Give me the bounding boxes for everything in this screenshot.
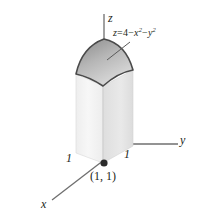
- point-marker-dot: [100, 159, 107, 166]
- column-left-face: [76, 74, 103, 163]
- y-axis-tick-label-1: 1: [124, 148, 130, 160]
- y-axis-label: y: [180, 134, 185, 146]
- paraboloid-solid-figure: z y x 1 1 (1, 1) z=4−x2−y2: [0, 0, 198, 217]
- surface-equation-label: z=4−x2−y2: [113, 27, 156, 38]
- z-axis-label: z: [108, 12, 113, 24]
- equation-exponent-y: 2: [153, 26, 156, 33]
- x-axis-tick-label-1: 1: [66, 152, 72, 164]
- x-axis-label: x: [41, 198, 46, 210]
- point-coordinate-label: (1, 1): [90, 170, 116, 182]
